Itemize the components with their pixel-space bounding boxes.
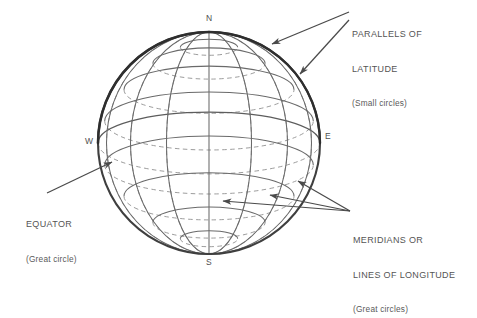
cardinal-label-north: N <box>206 13 212 23</box>
cardinal-label-west: W <box>85 136 93 146</box>
label-equator-line1: EQUATOR <box>26 219 77 231</box>
leader-lines <box>47 12 350 211</box>
leader-parallels-1 <box>272 12 349 44</box>
label-parallels-line2: LATITUDE <box>352 64 422 76</box>
label-parallels-of-latitude: PARALLELS OF LATITUDE (Small circles) <box>352 6 422 121</box>
label-equator-note: (Great circle) <box>26 254 77 266</box>
cardinal-label-south: S <box>206 257 212 267</box>
leader-equator <box>47 162 112 193</box>
leader-parallels-2 <box>300 20 349 74</box>
label-meridians-note: (Great circles) <box>353 304 455 316</box>
sphere-graticule <box>98 32 320 254</box>
label-meridians-lines-of-longitude: MERIDIANS OR LINES OF LONGITUDE (Great c… <box>353 212 455 318</box>
meridians-front <box>107 32 312 254</box>
label-parallels-line1: PARALLELS OF <box>352 29 422 41</box>
cardinal-label-east: E <box>325 131 331 141</box>
label-equator: EQUATOR (Great circle) <box>26 196 77 277</box>
label-parallels-note: (Small circles) <box>352 98 422 110</box>
label-meridians-line1: MERIDIANS OR <box>353 235 455 247</box>
label-meridians-line2: LINES OF LONGITUDE <box>353 270 455 282</box>
